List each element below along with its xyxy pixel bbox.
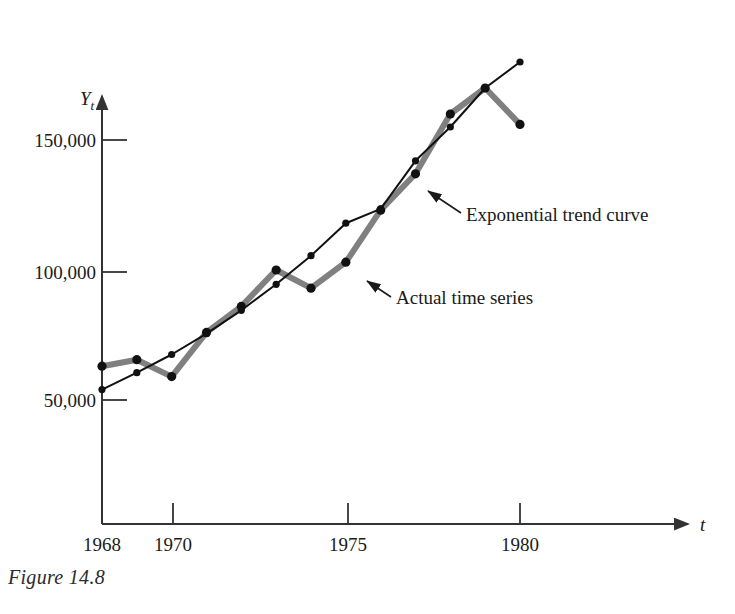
- x-tick-label-1980: 1980: [501, 534, 539, 555]
- data-point: [342, 220, 349, 227]
- x-axis-symbol: t: [700, 514, 706, 535]
- data-point: [306, 284, 315, 293]
- data-point: [447, 123, 454, 130]
- data-point: [168, 351, 175, 358]
- axes-group: [102, 96, 688, 524]
- y-tick-labels: 150,000 100,000 50,000: [34, 130, 96, 411]
- data-point: [377, 205, 384, 212]
- data-point: [446, 109, 455, 118]
- data-point: [515, 120, 524, 129]
- data-point: [272, 265, 281, 274]
- y-axis-symbol: Yt: [80, 88, 95, 113]
- data-point: [203, 330, 210, 337]
- data-point: [482, 84, 489, 91]
- trend-annotation-label: Exponential trend curve: [466, 204, 649, 225]
- x-tick-marks: [173, 503, 520, 524]
- annotation-actual-series: Actual time series: [367, 281, 533, 308]
- series-actual-time-series: [97, 83, 524, 381]
- data-point: [133, 369, 140, 376]
- x-tick-label-1968: 1968: [83, 534, 121, 555]
- data-point: [98, 386, 105, 393]
- annotation-exponential-trend: Exponential trend curve: [428, 191, 649, 225]
- data-point: [516, 58, 523, 65]
- data-point: [238, 307, 245, 314]
- data-point: [412, 157, 419, 164]
- actual-series-markers: [97, 83, 524, 381]
- data-point: [167, 372, 176, 381]
- actual-series-line: [102, 88, 520, 377]
- figure-container: 150,000 100,000 50,000 1968 1970 1975 19…: [0, 0, 735, 614]
- y-tick-label-100000: 100,000: [34, 262, 96, 283]
- x-tick-label-1975: 1975: [329, 534, 367, 555]
- x-tick-labels: 1968 1970 1975 1980: [83, 534, 539, 555]
- chart-svg: 150,000 100,000 50,000 1968 1970 1975 19…: [0, 0, 735, 614]
- y-tick-label-50000: 50,000: [44, 390, 96, 411]
- y-tick-label-150000: 150,000: [34, 130, 96, 151]
- data-point: [341, 258, 350, 267]
- data-point: [411, 169, 420, 178]
- figure-caption: Figure 14.8: [8, 566, 105, 589]
- data-point: [307, 252, 314, 259]
- actual-annotation-label: Actual time series: [396, 287, 533, 308]
- x-tick-label-1970: 1970: [154, 534, 192, 555]
- data-point: [273, 281, 280, 288]
- data-point: [132, 355, 141, 364]
- actual-leader-line: [367, 281, 391, 297]
- data-point: [97, 362, 106, 371]
- trend-leader-line: [428, 191, 461, 213]
